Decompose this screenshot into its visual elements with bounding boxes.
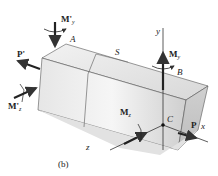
prismatic-bar xyxy=(38,44,208,155)
label-s: S xyxy=(115,47,120,57)
label-y-axis: y xyxy=(155,26,160,36)
moment-my-prime xyxy=(44,22,66,46)
moment-mz-prime xyxy=(14,84,36,102)
label-x-axis: x xyxy=(200,121,205,131)
label-b: B xyxy=(177,67,183,77)
point-c-dot xyxy=(161,123,165,127)
label-p: P xyxy=(191,120,197,130)
label-my: My xyxy=(169,49,181,60)
label-z-axis: z xyxy=(85,142,90,152)
figure-caption: (b) xyxy=(58,159,69,169)
eccentric-loading-diagram: M'y A P' M'z S y My B C P Mz z x (b) xyxy=(0,0,218,176)
label-a: A xyxy=(69,34,76,44)
label-my-prime: M'y xyxy=(61,14,75,25)
label-p-prime: P' xyxy=(17,49,25,59)
force-p-prime xyxy=(18,61,40,69)
label-c: C xyxy=(167,114,174,124)
label-mz-prime: M'z xyxy=(8,101,22,112)
